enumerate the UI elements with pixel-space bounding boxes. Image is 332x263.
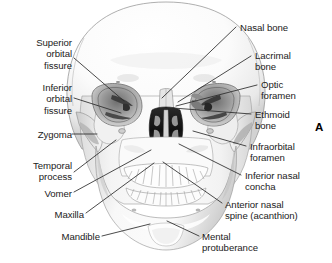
supraorbital-foramen-left bbox=[116, 81, 120, 83]
label-temporal-process: Temporal process bbox=[8, 160, 72, 183]
label-mental-protuberance: Mental protuberance bbox=[202, 231, 292, 254]
panel-letter-a: A bbox=[315, 121, 323, 133]
label-superior-orbital-fissure: Superior orbital fissure bbox=[8, 37, 72, 71]
mental-foramen-right bbox=[196, 208, 201, 211]
frontal-tuber-left bbox=[117, 74, 139, 82]
label-lacrimal-bone: Lacrimal bone bbox=[255, 50, 329, 73]
middle-nasal-concha-left bbox=[154, 116, 160, 126]
label-infraorbital-foramen: Infraorbital foramen bbox=[250, 141, 330, 164]
label-inferior-nasal-concha: Inferior nasal concha bbox=[245, 170, 331, 193]
label-anterior-nasal-spine: Anterior nasal spine (acanthion) bbox=[225, 199, 331, 222]
label-mandible: Mandible bbox=[36, 231, 100, 242]
label-nasal-bone: Nasal bone bbox=[240, 22, 330, 33]
supraorbital-foramen-right bbox=[212, 81, 216, 83]
label-vomer: Vomer bbox=[8, 188, 72, 199]
label-zygoma: Zygoma bbox=[8, 129, 72, 140]
infraorbital-foramen-right bbox=[207, 129, 214, 134]
label-inferior-orbital-fissure: Inferior orbital fissure bbox=[8, 82, 72, 116]
label-maxilla: Maxilla bbox=[20, 209, 84, 220]
infraorbital-foramen-left bbox=[119, 129, 126, 134]
skull-anatomy-figure: Superior orbital fissure Inferior orbita… bbox=[0, 0, 332, 263]
label-optic-foramen: Optic foramen bbox=[261, 79, 329, 102]
mental-foramen-left bbox=[132, 208, 137, 211]
middle-nasal-concha-right bbox=[172, 116, 178, 126]
